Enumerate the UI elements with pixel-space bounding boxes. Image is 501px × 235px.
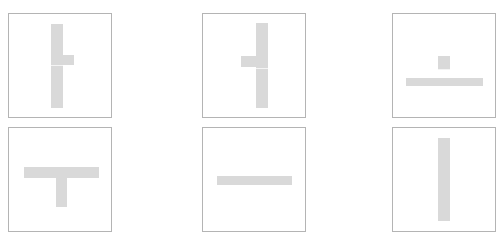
glyph-bar-segment (217, 176, 292, 185)
glyph-bar-segment (438, 138, 450, 221)
glyph-segment-gap (438, 69, 450, 70)
shape-tile-inverted-t[interactable] (392, 13, 496, 118)
glyph-bar-segment (56, 178, 67, 207)
glyph-bar-segment (406, 78, 483, 86)
shape-tile-vertical-bar[interactable] (392, 127, 496, 232)
shape-tile-horizontal-bar[interactable] (202, 127, 306, 232)
glyph-bar-segment (241, 56, 256, 67)
shape-tile-vertical-bar-right-nub[interactable] (8, 13, 112, 118)
glyph-bar-segment (63, 55, 74, 65)
glyph-bar-segment (24, 167, 99, 178)
glyph-bar-segment (438, 56, 450, 70)
glyph-segment-gap (51, 65, 63, 66)
shape-tile-vertical-bar-left-nub[interactable] (202, 13, 306, 118)
shape-tile-t-shape[interactable] (8, 127, 112, 232)
glyph-bar-segment (256, 23, 268, 108)
glyph-segment-gap (256, 68, 268, 69)
glyph-bar-segment (51, 24, 63, 108)
